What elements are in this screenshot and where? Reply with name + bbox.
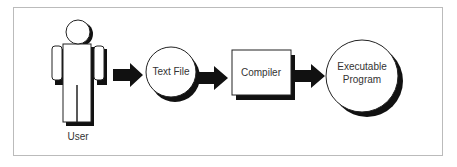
text-file-label: Text File — [152, 66, 190, 77]
executable-label-line2: Program — [343, 74, 381, 85]
executable-label-line1: Executable — [337, 61, 387, 72]
user-label: User — [67, 131, 89, 142]
compiler-label: Compiler — [241, 67, 282, 78]
diagram-canvas: User Text File Compiler Executable Progr… — [0, 0, 457, 167]
